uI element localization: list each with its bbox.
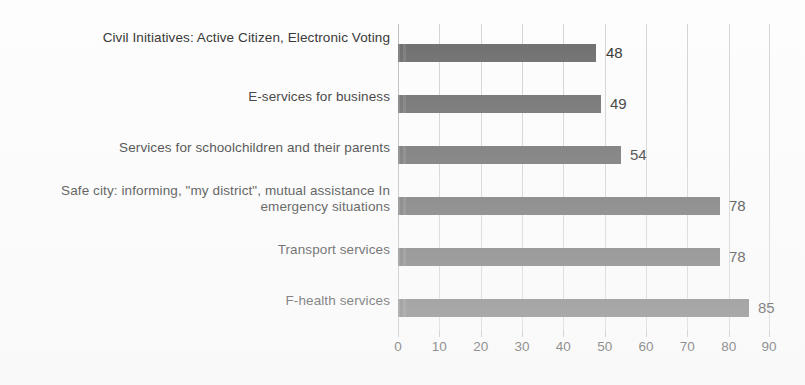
bar	[398, 146, 621, 164]
bar-rows: Civil Initiatives: Active Citizen, Elect…	[0, 24, 805, 330]
bar-value-label: 49	[610, 95, 627, 113]
x-axis: 0 10 20 30 40 50 60 70 80 90	[398, 330, 770, 370]
bar	[398, 95, 601, 113]
x-tick-label: 0	[394, 339, 402, 355]
bar-row: Services for schoolchildren and their pa…	[0, 126, 805, 177]
bar-value-label: 78	[729, 248, 746, 266]
x-tick-label: 70	[680, 339, 695, 355]
bar	[398, 299, 749, 317]
x-tick	[646, 330, 647, 337]
bar-value-label: 48	[606, 44, 623, 62]
category-label: F-health services	[30, 293, 390, 309]
x-tick	[439, 330, 440, 337]
x-tick	[398, 330, 399, 337]
category-label: Safe city: informing, "my district", mut…	[30, 183, 390, 215]
x-tick	[522, 330, 523, 337]
x-tick	[769, 330, 770, 337]
bar-chart: Civil Initiatives: Active Citizen, Elect…	[0, 0, 805, 385]
x-tick-label: 50	[597, 339, 612, 355]
x-tick-label: 40	[556, 339, 571, 355]
x-tick	[563, 330, 564, 337]
bar-row: E-services for business 49	[0, 75, 805, 126]
bar-row: Safe city: informing, "my district", mut…	[0, 177, 805, 228]
x-tick-label: 60	[638, 339, 653, 355]
x-tick-label: 30	[514, 339, 529, 355]
bar-value-label: 78	[729, 197, 746, 215]
bar	[398, 248, 720, 266]
x-tick-label: 20	[473, 339, 488, 355]
bar-value-label: 54	[630, 146, 647, 164]
category-label: Services for schoolchildren and their pa…	[30, 140, 390, 156]
bar-row: Civil Initiatives: Active Citizen, Elect…	[0, 24, 805, 75]
x-tick	[605, 330, 606, 337]
category-label: E-services for business	[30, 89, 390, 105]
x-tick	[687, 330, 688, 337]
bar-row: Transport services 78	[0, 228, 805, 279]
x-tick-label: 10	[432, 339, 447, 355]
bar-value-label: 85	[758, 299, 775, 317]
bar	[398, 44, 596, 62]
category-label: Transport services	[30, 242, 390, 258]
category-label: Civil Initiatives: Active Citizen, Elect…	[30, 30, 390, 46]
x-tick-label: 80	[721, 339, 736, 355]
bar-row: F-health services 85	[0, 279, 805, 330]
x-tick	[729, 330, 730, 337]
x-tick-label: 90	[761, 339, 776, 355]
bar	[398, 197, 720, 215]
x-tick	[481, 330, 482, 337]
